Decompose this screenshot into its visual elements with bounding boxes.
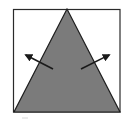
triangle-in-square-diagram: [0, 0, 124, 123]
